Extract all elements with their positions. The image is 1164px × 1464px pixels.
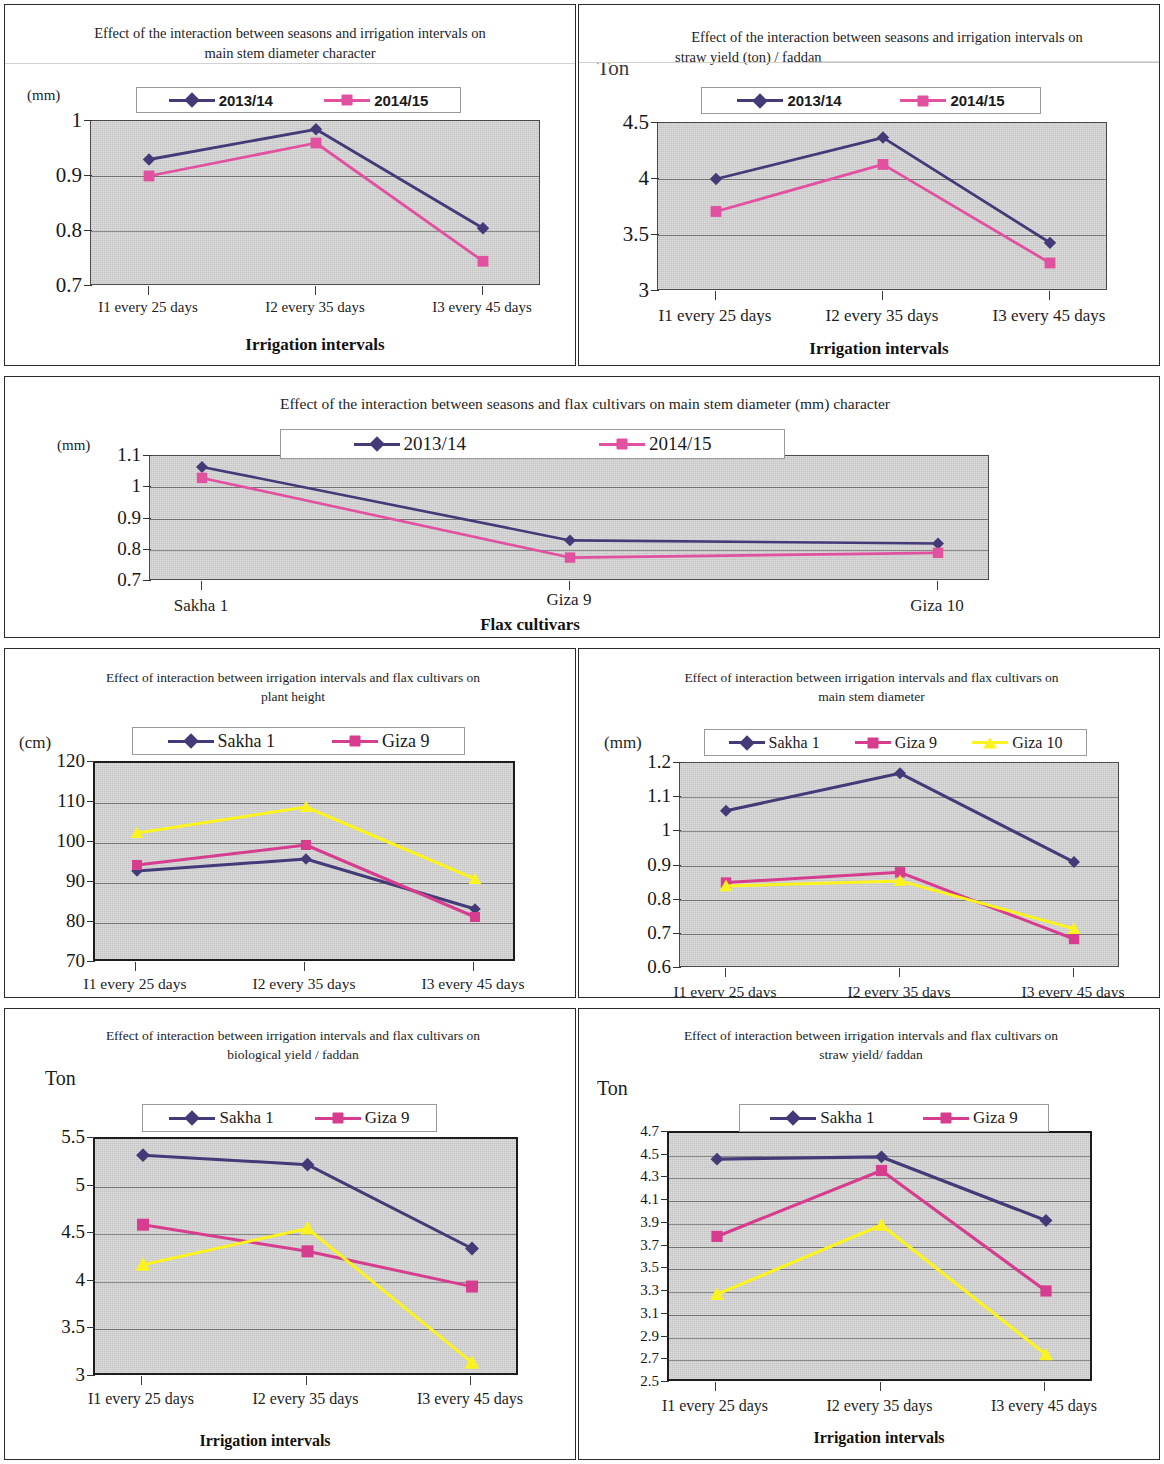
- x-axis-tick-label: I3 every 45 days: [991, 1397, 1097, 1415]
- chart-7-title: Effect of interaction between irrigation…: [621, 1027, 1121, 1064]
- legend-item-0[interactable]: 2013/14: [169, 92, 273, 109]
- legend-line-icon: [900, 99, 946, 102]
- x-axis-tick-label: I1 every 25 days: [659, 306, 772, 326]
- data-point: [720, 805, 732, 817]
- chart-1-unit-label: (mm): [27, 87, 60, 104]
- chart-3-plot-area: [149, 455, 989, 580]
- y-axis-tick: [87, 801, 95, 802]
- chart-6-legend[interactable]: Sakha 1 Giza 9: [142, 1104, 437, 1132]
- y-axis-tick-label: 2.9: [599, 1327, 659, 1344]
- y-axis-tick-label: 0.9: [22, 163, 82, 188]
- data-point: [301, 1158, 315, 1172]
- chart-5-plot-area: [679, 762, 1119, 967]
- data-point: [894, 767, 906, 779]
- chart-4-legend[interactable]: Sakha 1 Giza 9 Giza 10: [132, 727, 465, 755]
- y-axis-tick-label: 0.9: [611, 854, 671, 876]
- y-axis-tick-label: 3.7: [599, 1236, 659, 1253]
- legend-item-2-clipped[interactable]: Giza 10: [177, 754, 283, 755]
- legend-line-icon: [354, 443, 400, 446]
- chart-panel-6: Effect of interaction between irrigation…: [4, 1008, 576, 1460]
- series-canvas: [95, 763, 517, 963]
- chart-7-legend[interactable]: Sakha 1 Giza 9: [739, 1104, 1049, 1132]
- legend-item-0[interactable]: 2013/14: [737, 92, 841, 109]
- data-point: [711, 1231, 722, 1242]
- legend-label: Sakha 1: [820, 1108, 874, 1128]
- data-point: [136, 1148, 150, 1162]
- legend-item-0[interactable]: Sakha 1: [729, 734, 820, 752]
- y-axis-tick-label: 4: [589, 166, 649, 191]
- x-axis-tick-label: I3 every 45 days: [432, 299, 532, 316]
- chart-1-legend[interactable]: 2013/14 2014/15: [136, 87, 461, 113]
- legend-item-1[interactable]: Giza 9: [923, 1108, 1018, 1128]
- data-point: [310, 123, 322, 135]
- legend-item-1[interactable]: 2014/15: [900, 92, 1004, 109]
- legend-label: Giza 9: [382, 731, 429, 752]
- chart-2-legend[interactable]: 2013/14 2014/15: [701, 87, 1041, 114]
- legend-line-icon: [169, 99, 215, 102]
- series-canvas: [91, 121, 541, 286]
- x-axis-tick: [899, 968, 900, 977]
- legend-item-0[interactable]: Sakha 1: [770, 1108, 874, 1128]
- x-axis-tick: [1044, 1382, 1045, 1391]
- y-axis-tick-label: 3.5: [589, 222, 649, 247]
- series-line-sakha-1: [137, 859, 475, 909]
- x-axis-tick: [937, 581, 938, 590]
- y-axis-tick: [87, 761, 95, 762]
- legend-item-0[interactable]: 2013/14: [354, 433, 466, 455]
- legend-label: Giza 9: [895, 734, 937, 752]
- legend-item-1[interactable]: Giza 9: [855, 734, 937, 752]
- y-axis-tick-label: 100: [25, 830, 85, 852]
- x-axis-tick-label: I2 every 35 days: [246, 1389, 366, 1410]
- y-axis-tick-label: 0.9: [81, 507, 141, 529]
- legend-item-1[interactable]: Giza 9: [315, 1108, 410, 1128]
- legend-label: Giza 9: [973, 1108, 1018, 1128]
- y-axis-tick-label: 1.1: [611, 785, 671, 807]
- legend-item-2[interactable]: Giza 10: [972, 734, 1062, 752]
- legend-item-0[interactable]: Sakha 1: [169, 1108, 273, 1128]
- x-axis-tick-label: I1 every 25 days: [98, 299, 198, 316]
- series-canvas: [669, 1133, 1094, 1383]
- y-axis-tick: [87, 1375, 95, 1376]
- x-axis-tick-label: I1 every 25 days: [84, 975, 187, 993]
- data-point: [301, 840, 311, 850]
- x-axis-tick: [141, 1376, 142, 1385]
- chart-4-title: Effect of interaction between irrigation…: [43, 669, 543, 706]
- data-point: [565, 552, 575, 562]
- data-point: [875, 1218, 889, 1231]
- legend-line-icon: [315, 1117, 361, 1120]
- x-axis-tick: [1049, 291, 1050, 300]
- legend-line-icon: [855, 741, 891, 744]
- x-axis-tick-label: I3 every 45 days: [993, 306, 1106, 326]
- y-axis-tick: [661, 1176, 669, 1177]
- data-point: [465, 1242, 479, 1256]
- y-axis-tick-label: 110: [25, 790, 85, 812]
- x-axis-tick: [304, 962, 305, 971]
- series-line-2013-14: [716, 138, 1050, 243]
- chart-panel-7: Effect of interaction between irrigation…: [578, 1008, 1160, 1460]
- legend-item-1[interactable]: Giza 9: [332, 731, 429, 752]
- legend-item-1[interactable]: 2014/15: [324, 92, 428, 109]
- y-axis-tick-label: 120: [25, 750, 85, 772]
- y-axis-tick-label: 1: [81, 475, 141, 497]
- series-line-2014-15: [149, 143, 483, 261]
- y-axis-tick-label: 0.8: [22, 218, 82, 243]
- data-point: [300, 853, 312, 865]
- y-axis-tick-label: 1: [611, 819, 671, 841]
- legend-item-0[interactable]: Sakha 1: [168, 731, 276, 752]
- y-axis-tick-label: 0.7: [22, 273, 82, 298]
- chart-5-legend[interactable]: Sakha 1 Giza 9 Giza 10: [704, 729, 1087, 756]
- legend-line-icon: [324, 99, 370, 102]
- series-line-giza-10: [726, 881, 1074, 929]
- legend-label: 2014/15: [649, 433, 711, 455]
- legend-label: 2013/14: [787, 92, 841, 109]
- chart-2-plot-area: [657, 122, 1107, 290]
- x-axis-tick-label: Giza 10: [910, 596, 963, 616]
- legend-item-1[interactable]: 2014/15: [599, 433, 711, 455]
- chart-3-legend[interactable]: 2013/14 2014/15: [280, 429, 785, 459]
- x-axis-tick-label: I3 every 45 days: [1022, 983, 1125, 998]
- legend-label: Giza 9: [365, 1108, 410, 1128]
- y-axis-tick-label: 0.7: [611, 922, 671, 944]
- y-axis-tick-label: 2.5: [599, 1373, 659, 1390]
- legend-line-icon: [972, 741, 1008, 744]
- chart-5-title: Effect of interaction between irrigation…: [624, 669, 1119, 706]
